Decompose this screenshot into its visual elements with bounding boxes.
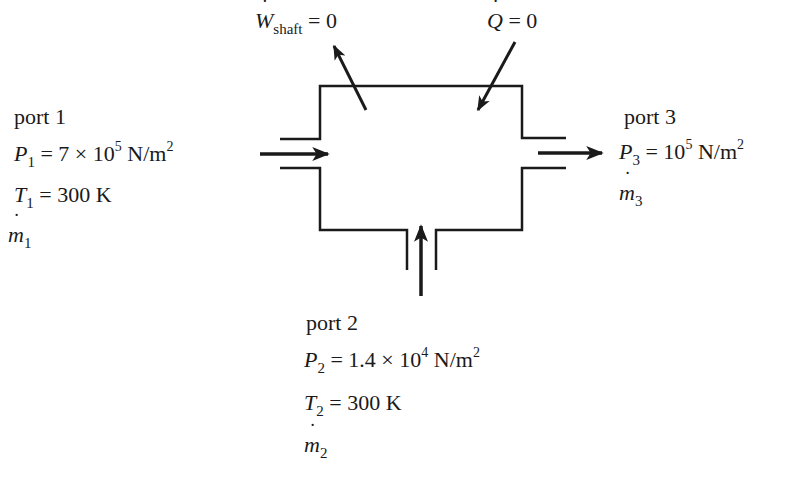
t1-sub: 1: [26, 195, 34, 211]
p1-exp: 5: [115, 139, 122, 154]
work-value: = 0: [308, 8, 337, 33]
heat-label: Q = 0: [487, 8, 537, 34]
port2-pressure: P2 = 1.4 × 104 N/m2: [304, 347, 480, 376]
t1-value: = 300 K: [39, 182, 111, 207]
work-arrow: [334, 46, 366, 110]
p3-value: = 10: [645, 139, 685, 164]
p2-symbol: P: [304, 347, 317, 372]
port2-label: port 2: [306, 310, 358, 336]
port1-pressure: P1 = 7 × 105 N/m2: [14, 141, 173, 170]
p1-unit: N/m: [122, 141, 167, 166]
m3-sub: 3: [635, 193, 643, 209]
port1-mass-flow: m1: [8, 222, 31, 250]
t1-symbol: T: [14, 182, 26, 207]
port3-pressure: P3 = 105 N/m2: [619, 139, 744, 168]
p1-symbol: P: [14, 141, 27, 166]
p3-symbol: P: [619, 139, 632, 164]
t2-symbol: T: [304, 390, 316, 415]
t2-value: = 300 K: [329, 390, 401, 415]
p2-value: = 1.4 × 10: [330, 347, 421, 372]
port2-mass-flow: m2: [304, 432, 327, 460]
t2-sub: 2: [316, 403, 324, 419]
work-label: Wshaft = 0: [255, 8, 337, 36]
p2-unit: N/m: [428, 347, 473, 372]
m1-sub: 1: [24, 235, 32, 251]
work-subscript: shaft: [273, 21, 302, 37]
port3-mass-flow: m3: [619, 180, 642, 208]
m1-symbol: m: [8, 222, 24, 248]
m2-sub: 2: [320, 445, 328, 461]
port3-label: port 3: [624, 104, 676, 130]
p3-sub: 3: [632, 152, 640, 168]
port1-label: port 1: [14, 104, 66, 130]
m3-symbol: m: [619, 180, 635, 206]
m2-symbol: m: [304, 432, 320, 458]
p1-value: = 7 × 10: [40, 141, 114, 166]
heat-symbol: Q: [487, 8, 503, 34]
port2-temperature: T2 = 300 K: [304, 390, 402, 418]
port1-temperature: T1 = 300 K: [14, 182, 112, 210]
p3-unit: N/m: [692, 139, 737, 164]
p2-sub: 2: [317, 360, 325, 376]
p3-exp: 5: [685, 137, 692, 152]
p3-unit-exp: 2: [737, 137, 744, 152]
p2-unit-exp: 2: [473, 345, 480, 360]
p1-sub: 1: [27, 154, 35, 170]
control-volume-diagram: Wshaft = 0 Q = 0 port 1 P1 = 7 × 105 N/m…: [0, 0, 789, 487]
heat-value: = 0: [508, 8, 537, 33]
p1-unit-exp: 2: [166, 139, 173, 154]
control-volume-boundary: [280, 86, 566, 270]
work-symbol: W: [255, 8, 273, 34]
heat-arrow: [478, 42, 515, 110]
p2-exp: 4: [421, 345, 428, 360]
